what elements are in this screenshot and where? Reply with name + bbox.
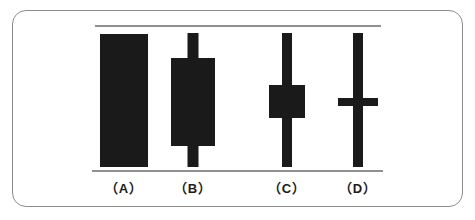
candle-c-body bbox=[269, 85, 305, 118]
candle-d-doji-crossbar bbox=[338, 98, 378, 106]
candle-d-label: （D） bbox=[339, 178, 377, 197]
candle-a-body bbox=[100, 34, 148, 167]
low-reference-line bbox=[92, 170, 383, 172]
candle-b-label: （B） bbox=[174, 178, 212, 197]
high-reference-line bbox=[95, 25, 381, 27]
candlestick-diagram: （A） （B） （C） （D） bbox=[0, 0, 475, 220]
plot-area: （A） （B） （C） （D） bbox=[0, 0, 475, 220]
candle-c-label: （C） bbox=[268, 178, 306, 197]
candle-b-body bbox=[171, 58, 215, 146]
candle-a-label: （A） bbox=[105, 178, 143, 197]
